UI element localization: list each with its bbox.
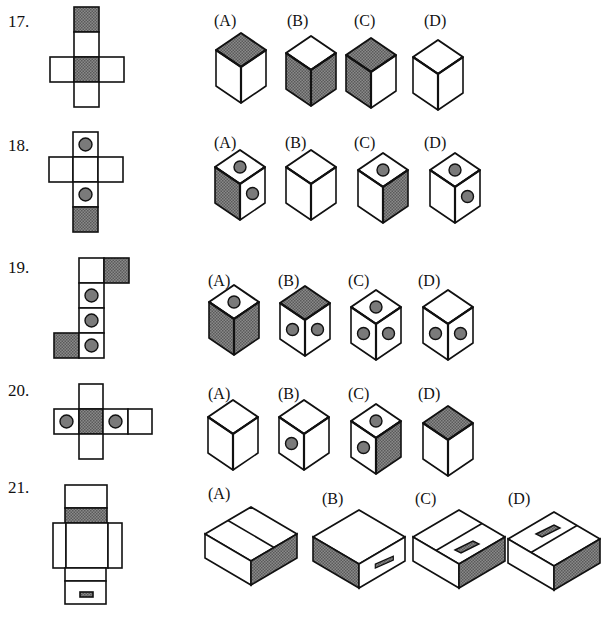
- dot-icon: [287, 324, 299, 336]
- option-label[interactable]: (C): [348, 385, 369, 403]
- problem-number: 19.: [8, 258, 29, 278]
- net-face: [74, 32, 99, 57]
- option-label[interactable]: (D): [508, 490, 530, 508]
- option-label[interactable]: (A): [214, 134, 236, 152]
- net-face: [98, 157, 123, 182]
- dot-icon: [312, 324, 324, 336]
- dot-icon: [109, 415, 122, 428]
- answer-option-b[interactable]: [279, 400, 329, 470]
- option-label[interactable]: (C): [354, 12, 375, 30]
- net-face: [65, 508, 107, 523]
- answer-option-a[interactable]: [205, 507, 297, 585]
- net-face: [65, 568, 106, 581]
- answer-option-d[interactable]: [423, 290, 473, 360]
- net-face: [53, 523, 66, 568]
- answer-option-a[interactable]: [208, 400, 258, 470]
- dot-icon: [85, 289, 98, 302]
- net-face: [108, 523, 122, 568]
- option-label[interactable]: (A): [208, 485, 230, 503]
- answer-option-c[interactable]: [351, 290, 401, 360]
- net-face: [128, 409, 152, 434]
- net-face: [66, 523, 108, 568]
- dot-icon: [358, 328, 370, 340]
- answer-option-b[interactable]: [313, 510, 405, 588]
- net-face: [49, 157, 73, 182]
- dot-icon: [455, 328, 467, 340]
- answer-option-d[interactable]: [430, 153, 480, 223]
- net-face: [74, 57, 99, 82]
- option-label[interactable]: (D): [418, 385, 440, 403]
- net-face: [73, 157, 98, 182]
- option-label[interactable]: (C): [354, 134, 375, 152]
- net-face: [74, 82, 99, 107]
- cube-net-21: [53, 485, 122, 604]
- dot-icon: [247, 188, 259, 200]
- cube-net-19: [54, 258, 129, 358]
- dot-icon: [430, 328, 442, 340]
- answer-option-c[interactable]: [346, 38, 396, 108]
- answer-option-b[interactable]: [286, 150, 336, 220]
- option-label[interactable]: (D): [418, 272, 440, 290]
- option-label[interactable]: (A): [208, 385, 230, 403]
- dot-icon: [79, 188, 92, 201]
- answer-option-a[interactable]: [215, 150, 265, 220]
- net-face: [99, 57, 124, 82]
- net-face: [50, 57, 74, 82]
- net-face: [79, 384, 103, 409]
- net-face: [74, 7, 99, 32]
- option-label[interactable]: (D): [424, 12, 446, 30]
- net-face: [54, 333, 79, 358]
- problem-number: 18.: [8, 136, 29, 156]
- dot-icon: [377, 164, 389, 176]
- answer-option-d[interactable]: [423, 406, 473, 476]
- problem-number: 17.: [8, 12, 29, 32]
- dot-icon: [370, 415, 382, 427]
- problem-number: 21.: [8, 478, 29, 498]
- net-face: [79, 409, 103, 434]
- net-face: [79, 258, 104, 283]
- option-label[interactable]: (B): [285, 134, 306, 152]
- dot-icon: [370, 301, 382, 313]
- dot-icon: [60, 415, 73, 428]
- cube-net-18: [49, 132, 123, 232]
- dot-icon: [228, 296, 240, 308]
- dot-icon: [79, 138, 92, 151]
- option-label[interactable]: (B): [278, 272, 299, 290]
- dot-icon: [358, 442, 370, 454]
- answer-option-a[interactable]: [209, 285, 259, 355]
- dot-icon: [449, 164, 461, 176]
- answer-option-b[interactable]: [280, 286, 330, 356]
- option-label[interactable]: (C): [348, 272, 369, 290]
- option-label[interactable]: (A): [214, 12, 236, 30]
- cube-net-20: [54, 384, 152, 459]
- cube-net-17: [50, 7, 124, 107]
- option-label[interactable]: (D): [424, 134, 446, 152]
- dot-icon: [234, 161, 246, 173]
- option-label[interactable]: (A): [208, 272, 230, 290]
- dot-icon: [85, 339, 98, 352]
- answer-option-d[interactable]: [508, 512, 600, 590]
- dot-icon: [85, 314, 98, 327]
- answer-option-c[interactable]: [358, 153, 408, 223]
- answer-option-a[interactable]: [216, 33, 266, 103]
- net-face: [65, 485, 107, 508]
- dot-icon: [462, 191, 474, 203]
- option-label[interactable]: (B): [287, 12, 308, 30]
- net-face: [79, 434, 103, 459]
- answer-option-d[interactable]: [413, 40, 463, 110]
- dot-icon: [383, 328, 395, 340]
- answer-option-c[interactable]: [351, 404, 401, 474]
- option-label[interactable]: (B): [322, 490, 343, 508]
- answer-option-b[interactable]: [286, 36, 336, 106]
- problem-sheet: [0, 0, 616, 641]
- option-label[interactable]: (B): [278, 385, 299, 403]
- net-face: [80, 592, 93, 597]
- net-face: [104, 258, 129, 283]
- option-label[interactable]: (C): [415, 490, 436, 508]
- dot-icon: [286, 438, 298, 450]
- net-face: [73, 207, 98, 232]
- answer-option-c[interactable]: [413, 510, 505, 588]
- problem-number: 20.: [8, 381, 29, 401]
